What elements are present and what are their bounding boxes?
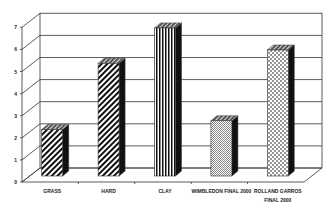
x-category-label: WIMBLEDON FINAL 2000: [191, 188, 251, 194]
bar-chart-3d: 01234567 GRASSHARDCLAYWIMBLEDON FINAL 20…: [0, 0, 336, 214]
y-axis: 01234567: [14, 24, 22, 185]
gridline-side: [22, 35, 40, 49]
y-tick-label: 2: [14, 135, 17, 141]
bar-side: [176, 23, 182, 176]
bar-front: [211, 121, 232, 176]
bar-side: [232, 116, 238, 176]
gridline-side: [22, 124, 40, 138]
bar-grass: [42, 125, 69, 176]
bar-side: [288, 45, 294, 176]
gridline-side: [22, 13, 40, 27]
y-tick-label: 7: [14, 24, 17, 30]
gridline-side: [22, 168, 40, 182]
x-category-label: HARD: [101, 188, 116, 194]
x-category-label: ROLLAND GARROS: [254, 188, 302, 194]
bar-front: [98, 63, 119, 176]
x-category-label: GRASS: [43, 188, 61, 194]
y-tick-label: 4: [14, 91, 17, 97]
gridline-side: [22, 102, 40, 116]
y-tick-label: 6: [14, 46, 17, 52]
bars: [42, 23, 295, 176]
bar-clay: [155, 23, 182, 176]
y-tick-label: 3: [14, 113, 17, 119]
bar-side: [63, 125, 69, 176]
bar-hard: [98, 58, 125, 176]
bar-front: [42, 130, 63, 176]
y-tick-label: 0: [14, 179, 17, 185]
bar-front: [267, 50, 288, 176]
bar-wimbledon-final-2000: [211, 116, 238, 176]
gridline-side: [22, 80, 40, 94]
gridline-side: [22, 146, 40, 160]
bar-side: [119, 58, 125, 176]
floor-right-edge: [304, 168, 322, 182]
x-axis: GRASSHARDCLAYWIMBLEDON FINAL 2000ROLLAND…: [43, 182, 302, 203]
bar-front: [155, 28, 176, 176]
gridline-side: [22, 58, 40, 72]
x-category-label: CLAY: [158, 188, 172, 194]
bar-rolland-garros-final-2000: [267, 45, 294, 176]
y-tick-label: 5: [14, 69, 17, 75]
x-category-label: FINAL 2000: [264, 197, 291, 203]
y-tick-label: 1: [14, 157, 17, 163]
